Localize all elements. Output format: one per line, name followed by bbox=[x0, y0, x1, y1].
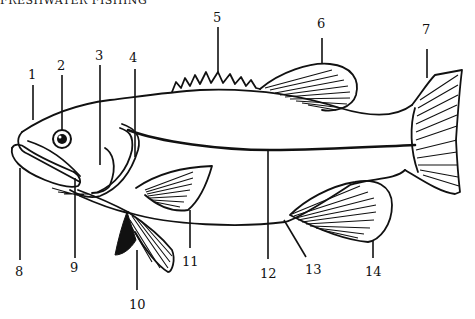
eye bbox=[53, 130, 71, 148]
label-13: 13 bbox=[305, 262, 322, 277]
label-11: 11 bbox=[182, 254, 199, 269]
pectoral-fin bbox=[136, 166, 212, 210]
label-4: 4 bbox=[129, 50, 137, 65]
leader-13 bbox=[284, 220, 306, 257]
number-labels: 1 2 3 4 5 6 7 8 9 10 11 12 13 14 bbox=[15, 10, 430, 312]
label-9: 9 bbox=[70, 260, 78, 275]
label-2: 2 bbox=[57, 58, 65, 73]
leader-lines bbox=[20, 27, 427, 290]
label-12: 12 bbox=[260, 266, 277, 281]
label-14: 14 bbox=[365, 264, 382, 279]
label-10: 10 bbox=[129, 297, 146, 312]
label-5: 5 bbox=[213, 10, 221, 25]
label-3: 3 bbox=[95, 48, 103, 63]
fish-diagram: 1 2 3 4 5 6 7 8 9 10 11 12 13 14 bbox=[0, 0, 475, 319]
soft-dorsal-fin bbox=[260, 64, 357, 111]
label-6: 6 bbox=[317, 16, 325, 31]
fish-body-outline bbox=[12, 70, 462, 225]
label-8: 8 bbox=[15, 264, 23, 279]
label-1: 1 bbox=[28, 67, 36, 82]
label-7: 7 bbox=[422, 22, 430, 37]
